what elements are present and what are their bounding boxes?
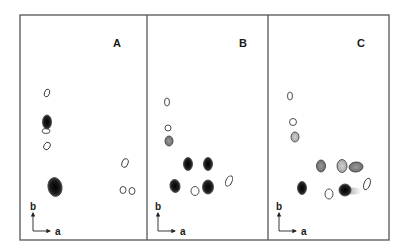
spot-dark <box>46 176 63 197</box>
spot-grey <box>349 161 364 172</box>
axis-a-label: a <box>180 226 186 237</box>
spot-grey <box>317 160 326 172</box>
panel-label: B <box>239 37 247 49</box>
spot-open <box>165 125 171 131</box>
spot-open <box>43 88 50 97</box>
axis-b-label: b <box>30 201 36 212</box>
panel-b: Bba <box>155 37 247 237</box>
panel-label: A <box>113 37 121 49</box>
spot-open <box>290 119 297 126</box>
spot-dark <box>169 179 181 194</box>
figure-canvas: Aba Bba Cba <box>0 0 407 252</box>
axis-b-label: b <box>276 201 282 212</box>
outer-frame <box>20 15 389 240</box>
panel-label: C <box>357 37 365 49</box>
spot-open <box>165 98 170 106</box>
spot-open <box>129 188 135 195</box>
axis-a-label: a <box>55 226 61 237</box>
spot-light_grey <box>291 132 299 142</box>
spot-dark <box>298 182 307 195</box>
spot-open <box>362 177 372 190</box>
figure-frame <box>20 15 389 240</box>
spot-dark <box>339 184 362 196</box>
spot-open <box>121 158 130 169</box>
spot-open <box>191 187 199 196</box>
spot-grey <box>165 136 173 146</box>
panel-c: Cba <box>276 37 372 237</box>
axis-indicator: ba <box>30 201 61 237</box>
spot-dark <box>43 115 52 129</box>
spot-open <box>42 141 52 151</box>
spot-open <box>224 175 234 188</box>
spot-light_grey <box>337 160 347 173</box>
spot-open <box>325 189 333 199</box>
spot-open <box>120 187 126 194</box>
spot-dark <box>204 158 213 171</box>
spot-dark <box>184 158 193 171</box>
axis-b-label: b <box>155 201 161 212</box>
axis-indicator: ba <box>276 201 307 237</box>
panel-a: Aba <box>30 37 135 237</box>
axis-a-label: a <box>301 226 307 237</box>
axis-indicator: ba <box>155 201 186 237</box>
spot-dark <box>203 180 214 194</box>
spot-open <box>288 92 293 100</box>
